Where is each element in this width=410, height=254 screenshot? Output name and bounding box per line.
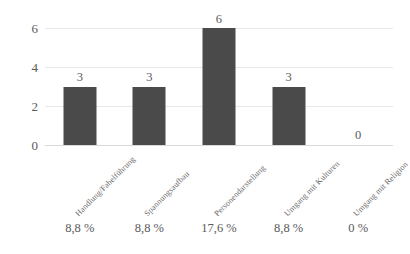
percent-handlung-fabelfuehrung: 8,8 % [45,222,115,235]
bar-value-personendarstellung: 6 [216,13,222,26]
x-axis-label-umgang-mit-religion: Umgang mit Religion [352,161,410,219]
percent-personendarstellung: 17,6 % [184,222,254,235]
y-tick-label-4: 4 [0,61,38,74]
bar-slot-umgang-mit-religion: 0 [323,28,393,145]
x-axis-labels: Handlung/Fabelführung Spannungsaufbau Pe… [45,148,393,214]
bar-slot-personendarstellung: 6 [184,28,254,145]
y-tick-label-2: 2 [0,100,38,113]
bar-slot-spannungsaufbau: 3 [115,28,185,145]
bar-spannungsaufbau[interactable] [133,87,166,146]
y-tick-label-6: 6 [0,22,38,35]
bar-value-spannungsaufbau: 3 [146,71,152,84]
x-label-slot-spannungsaufbau: Spannungsaufbau [115,148,185,214]
bar-handlung-fabelfuehrung[interactable] [63,87,96,146]
x-label-slot-handlung-fabelfuehrung: Handlung/Fabelführung [45,148,115,214]
percent-umgang-mit-kulturen: 8,8 % [254,222,324,235]
bars-layer: 3 3 6 3 0 [45,28,393,145]
percentage-row: 8,8 % 8,8 % 17,6 % 8,8 % 0 % [45,222,393,244]
bar-slot-handlung-fabelfuehrung: 3 [45,28,115,145]
x-label-slot-umgang-mit-kulturen: Umgang mit Kulturen [254,148,324,214]
gridline-0-baseline [45,145,393,146]
bar-slot-umgang-mit-kulturen: 3 [254,28,324,145]
bar-value-umgang-mit-religion: 0 [355,129,361,142]
x-label-slot-umgang-mit-religion: Umgang mit Religion [323,148,393,214]
bar-umgang-mit-kulturen[interactable] [272,87,305,146]
bar-personendarstellung[interactable] [202,28,235,145]
bar-value-umgang-mit-kulturen: 3 [285,71,291,84]
bar-value-handlung-fabelfuehrung: 3 [77,71,83,84]
percent-umgang-mit-religion: 0 % [323,222,393,235]
x-label-slot-personendarstellung: Personendarstellung [184,148,254,214]
percent-spannungsaufbau: 8,8 % [115,222,185,235]
y-tick-label-0: 0 [0,139,38,152]
